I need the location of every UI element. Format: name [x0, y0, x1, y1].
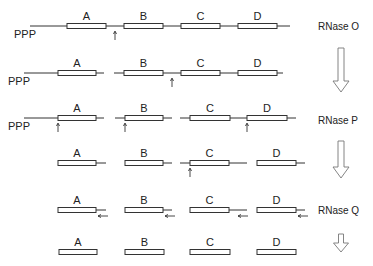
gene-label-b: B: [140, 57, 147, 69]
gene-box-d: [257, 250, 296, 255]
process-down-arrow-icon: [333, 48, 349, 92]
ppp-label: PPP: [14, 28, 36, 40]
gene-label-c: C: [206, 147, 214, 159]
gene-label-c: C: [206, 236, 214, 248]
gene-box-b: [125, 250, 164, 255]
gene-box-b: [125, 208, 163, 213]
enzyme-label-rnase-o: RNase O: [318, 21, 359, 32]
gene-box-b: [125, 161, 163, 166]
gene-label-b: B: [140, 10, 147, 22]
gene-label-d: D: [254, 57, 262, 69]
gene-label-b: B: [141, 236, 148, 248]
gene-box-c: [190, 161, 229, 166]
enzyme-label-rnase-p: RNase P: [318, 115, 358, 126]
gene-box-c: [181, 24, 220, 29]
gene-label-a: A: [73, 102, 81, 114]
gene-label-a: A: [83, 10, 91, 22]
gene-label-d: D: [273, 236, 281, 248]
gene-label-c: C: [206, 194, 214, 206]
gene-box-d: [257, 208, 296, 213]
gene-box-a: [58, 161, 96, 166]
ppp-label: PPP: [8, 120, 30, 132]
gene-box-d: [257, 161, 296, 166]
process-down-arrow-icon: [333, 141, 349, 178]
gene-box-a: [59, 250, 97, 255]
process-down-arrow-icon: [334, 234, 349, 252]
gene-box-d: [238, 24, 277, 29]
gene-box-b: [125, 116, 163, 121]
gene-box-a: [58, 116, 96, 121]
gene-label-a: A: [73, 57, 81, 69]
diagram-svg: ABCDPPPABCDPPPABCDPPPABCDABCDABCDRNase O…: [0, 0, 373, 266]
gene-box-d: [238, 71, 277, 76]
gene-box-a: [67, 24, 106, 29]
gene-box-d: [247, 116, 287, 121]
gene-label-a: A: [73, 194, 81, 206]
gene-label-a: A: [74, 236, 82, 248]
gene-label-c: C: [197, 10, 205, 22]
gene-box-c: [190, 208, 229, 213]
rna-processing-diagram: ABCDPPPABCDPPPABCDPPPABCDABCDABCDRNase O…: [0, 0, 373, 266]
gene-label-b: B: [140, 102, 147, 114]
gene-box-c: [190, 250, 230, 255]
enzyme-label-rnase-q: RNase Q: [318, 205, 359, 216]
gene-box-a: [58, 208, 96, 213]
ppp-label: PPP: [8, 75, 30, 87]
gene-box-b: [124, 71, 163, 76]
gene-label-d: D: [273, 147, 281, 159]
gene-box-b: [124, 24, 163, 29]
gene-box-c: [181, 71, 220, 76]
gene-label-c: C: [206, 102, 214, 114]
gene-label-a: A: [73, 147, 81, 159]
gene-box-c: [190, 116, 230, 121]
gene-label-b: B: [140, 194, 147, 206]
gene-label-d: D: [263, 102, 271, 114]
gene-label-d: D: [254, 10, 262, 22]
gene-label-b: B: [140, 147, 147, 159]
gene-box-a: [58, 71, 96, 76]
gene-label-d: D: [273, 194, 281, 206]
gene-label-c: C: [197, 57, 205, 69]
